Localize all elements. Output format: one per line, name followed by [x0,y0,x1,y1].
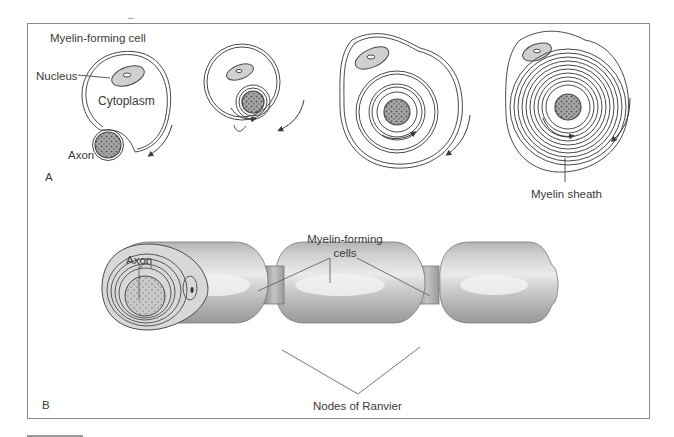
label-cytoplasm: Cytoplasm [98,95,155,107]
stage-2-cell [204,44,304,131]
label-nucleus: Nucleus [36,71,78,83]
label-axon-a: Axon [68,150,94,162]
panel-label-b: B [42,400,50,412]
label-axon-b: Axon [126,255,152,267]
label-myelin-forming-cells-line1: Myelin-forming [305,234,385,246]
myelination-diagram [0,0,674,437]
label-nodes-of-ranvier: Nodes of Ranvier [313,401,402,413]
label-myelin-forming-cells: Myelin-forming cells [305,234,385,259]
panel-label-a: A [45,172,53,184]
stage-3-cell [340,34,470,169]
label-myelin-forming-cell: Myelin-forming cell [50,33,146,45]
axon-shape [95,132,121,158]
label-myelin-forming-cells-line2: cells [305,248,385,260]
label-myelin-sheath: Myelin sheath [531,189,602,201]
stage-4-cell [506,31,630,182]
